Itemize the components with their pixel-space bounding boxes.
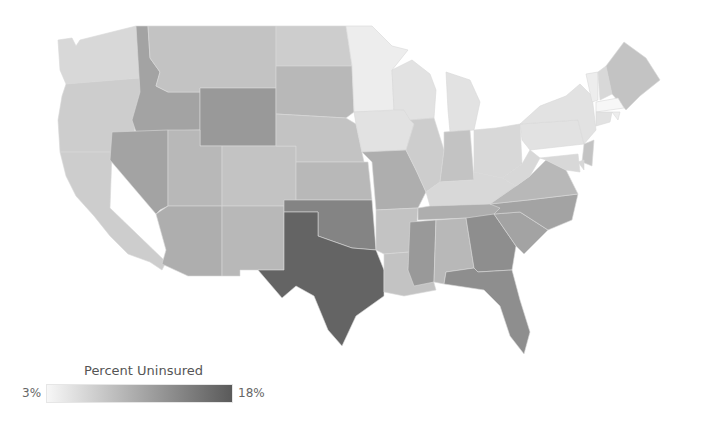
state-nd[interactable] [276, 26, 352, 66]
state-sd[interactable] [276, 66, 354, 118]
state-az[interactable] [156, 206, 222, 276]
state-nv[interactable] [110, 130, 168, 214]
state-wa[interactable] [58, 26, 140, 84]
state-ri[interactable] [612, 112, 620, 120]
state-mi[interactable] [446, 72, 480, 132]
state-ct[interactable] [596, 112, 612, 126]
state-ia[interactable] [354, 110, 414, 152]
legend-min-label: 3% [22, 386, 41, 400]
state-wy[interactable] [200, 88, 276, 146]
state-ms[interactable] [408, 220, 436, 286]
legend-color-bar [46, 384, 233, 403]
state-mt[interactable] [148, 26, 276, 92]
state-pa[interactable] [520, 120, 584, 150]
state-ks[interactable] [296, 162, 372, 200]
state-in[interactable] [440, 130, 474, 182]
legend-title: Percent Uninsured [84, 363, 203, 378]
state-nm[interactable] [222, 206, 284, 276]
legend-max-label: 18% [238, 386, 265, 400]
state-fl[interactable] [444, 268, 530, 354]
state-co[interactable] [222, 146, 296, 206]
